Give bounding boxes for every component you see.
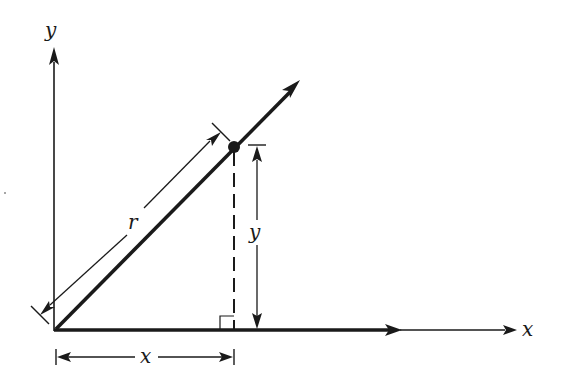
x-axis-label: x bbox=[522, 317, 533, 341]
x-dimension-label: x bbox=[140, 344, 151, 368]
right-angle-marker bbox=[220, 316, 234, 329]
r-dimension-label: r bbox=[128, 210, 139, 234]
x-dimension: x bbox=[56, 344, 234, 368]
r-dimension-top-arrow-icon bbox=[206, 132, 221, 146]
ray bbox=[56, 80, 300, 329]
point-marker bbox=[228, 141, 240, 153]
perpendicular-dashed-line bbox=[220, 152, 234, 329]
y-dimension-label: y bbox=[248, 220, 261, 244]
y-axis-label: y bbox=[44, 18, 57, 42]
polar-coordinates-diagram: y x y r bbox=[0, 0, 563, 388]
x-axis: x bbox=[54, 317, 533, 341]
r-dimension: r bbox=[31, 123, 230, 324]
y-dimension: y bbox=[248, 145, 266, 329]
speck bbox=[4, 192, 6, 194]
x-axis-arrow-icon bbox=[503, 325, 517, 335]
y-axis: y bbox=[44, 18, 59, 331]
y-dimension-top-arrow-icon bbox=[252, 146, 262, 162]
